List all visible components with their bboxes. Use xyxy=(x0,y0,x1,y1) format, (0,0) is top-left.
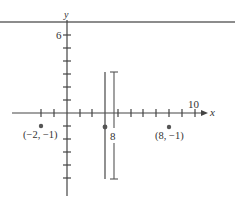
x-axis-arrow-icon xyxy=(201,110,208,116)
y-tick-label-6: 6 xyxy=(56,29,62,41)
point-label-8-neg1: (8, −1) xyxy=(155,130,184,142)
point-neg2-neg1 xyxy=(39,124,43,128)
x-tick-label-10: 10 xyxy=(188,98,200,110)
y-axis-label: y xyxy=(63,9,69,20)
x-axis xyxy=(12,109,208,117)
point-label-neg2-neg1: (−2, −1) xyxy=(23,129,58,141)
coordinate-diagram: y 6 x 10 8 (−2, −1) (8, −1) xyxy=(0,0,235,211)
point-3-neg1 xyxy=(103,125,108,130)
y-axis xyxy=(63,20,71,196)
measurement-bar xyxy=(110,72,118,179)
point-8-neg1 xyxy=(167,125,171,129)
x-axis-label: x xyxy=(209,106,215,118)
measurement-label: 8 xyxy=(110,130,116,142)
